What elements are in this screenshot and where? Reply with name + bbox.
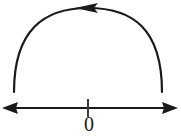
number-line-left-arrowhead	[2, 102, 18, 114]
figure-root: 0	[0, 0, 181, 139]
semicircular-arc-path	[14, 8, 162, 92]
origin-label-zero: 0	[81, 113, 97, 135]
number-line-right-arrowhead	[162, 102, 178, 114]
